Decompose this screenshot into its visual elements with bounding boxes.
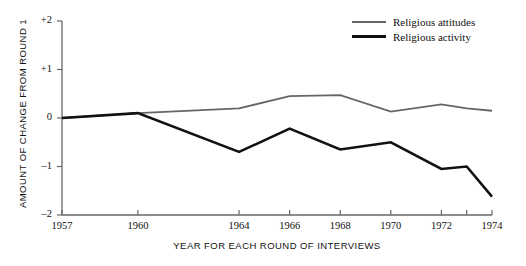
y-tick-label: +1	[26, 63, 52, 74]
x-tick-label: 1972	[421, 220, 461, 231]
y-tick-label: 0	[26, 111, 52, 122]
x-tick-label: 1960	[118, 220, 158, 231]
x-axis-title: YEAR FOR EACH ROUND OF INTERVIEWS	[62, 240, 492, 251]
legend-line-swatch-icon	[352, 35, 386, 38]
x-tick-label: 1974	[472, 220, 512, 231]
x-tick-label: 1968	[320, 220, 360, 231]
x-axis-ticks	[62, 210, 492, 215]
legend-item-religious-attitudes: Religious attitudes	[352, 14, 475, 29]
x-tick-label: 1966	[270, 220, 310, 231]
y-tick-label: –2	[26, 208, 52, 219]
x-tick-label: 1957	[42, 220, 82, 231]
chart-container: AMOUNT OF CHANGE FROM ROUND 1 YEAR FOR E…	[0, 0, 526, 266]
x-tick-label: 1964	[219, 220, 259, 231]
y-axis-ticks	[57, 21, 62, 215]
y-tick-label: –1	[26, 160, 52, 171]
chart-legend: Religious attitudes Religious activity	[352, 14, 475, 44]
legend-line-swatch-icon	[352, 21, 386, 23]
legend-item-religious-activity: Religious activity	[352, 29, 475, 44]
legend-item-label: Religious attitudes	[393, 16, 475, 28]
legend-item-label: Religious activity	[393, 31, 471, 43]
series-line-religious-activity	[62, 113, 492, 196]
x-tick-label: 1970	[371, 220, 411, 231]
data-series-group	[62, 95, 492, 196]
y-tick-label: +2	[26, 14, 52, 25]
axis-lines	[62, 21, 492, 215]
